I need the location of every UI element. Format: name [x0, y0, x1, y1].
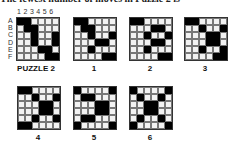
white-cell: [32, 101, 39, 108]
white-cell: [151, 87, 158, 94]
white-cell: [52, 18, 59, 25]
black-cell: [81, 94, 88, 101]
black-cell: [144, 32, 151, 39]
white-cell: [45, 25, 52, 32]
black-cell: [53, 94, 60, 101]
black-cell: [32, 115, 39, 122]
white-cell: [17, 53, 24, 60]
white-cell: [192, 39, 199, 46]
black-cell: [74, 122, 81, 129]
white-cell: [38, 25, 45, 32]
white-cell: [74, 108, 81, 115]
white-cell: [95, 53, 102, 60]
white-cell: [158, 46, 165, 53]
white-cell: [53, 87, 60, 94]
row-label: A: [8, 17, 16, 24]
puzzle-grid-option-4: [17, 86, 61, 130]
black-cell: [32, 94, 39, 101]
white-cell: [24, 32, 31, 39]
black-cell: [109, 32, 116, 39]
white-cell: [53, 108, 60, 115]
white-cell: [137, 25, 144, 32]
white-cell: [192, 46, 199, 53]
black-cell: [220, 46, 227, 53]
white-cell: [144, 53, 151, 60]
white-cell: [130, 32, 137, 39]
white-cell: [46, 94, 53, 101]
black-cell: [213, 39, 220, 46]
white-cell: [192, 25, 199, 32]
black-cell: [31, 39, 38, 46]
white-cell: [88, 101, 95, 108]
white-cell: [144, 122, 151, 129]
white-cell: [74, 115, 81, 122]
black-cell: [199, 25, 206, 32]
white-cell: [74, 39, 81, 46]
white-cell: [137, 39, 144, 46]
white-cell: [95, 94, 102, 101]
white-cell: [74, 53, 81, 60]
white-cell: [52, 46, 59, 53]
row-labels: ABCDEF: [8, 17, 16, 60]
white-cell: [130, 46, 137, 53]
white-cell: [38, 39, 45, 46]
white-cell: [144, 115, 151, 122]
black-cell: [46, 108, 53, 115]
black-cell: [31, 25, 38, 32]
black-cell: [95, 39, 102, 46]
black-cell: [220, 53, 227, 60]
white-cell: [165, 39, 172, 46]
black-cell: [158, 115, 165, 122]
white-cell: [185, 25, 192, 32]
white-cell: [213, 46, 220, 53]
white-cell: [31, 46, 38, 53]
header-text: The fewest number of moves in Puzzle 2 i…: [0, 0, 234, 4]
white-cell: [206, 46, 213, 53]
white-cell: [151, 53, 158, 60]
column-numbers: 1 2 3 4 5 6: [17, 8, 53, 15]
white-cell: [165, 115, 172, 122]
white-cell: [88, 108, 95, 115]
white-cell: [213, 18, 220, 25]
white-cell: [24, 46, 31, 53]
white-cell: [95, 32, 102, 39]
black-cell: [144, 101, 151, 108]
black-cell: [52, 53, 59, 60]
white-cell: [39, 87, 46, 94]
puzzle-grid-option-2: [129, 17, 173, 61]
white-cell: [95, 25, 102, 32]
white-cell: [151, 32, 158, 39]
black-cell: [220, 25, 227, 32]
white-cell: [45, 32, 52, 39]
white-cell: [144, 25, 151, 32]
black-cell: [88, 46, 95, 53]
white-cell: [81, 53, 88, 60]
white-cell: [185, 46, 192, 53]
black-cell: [74, 18, 81, 25]
black-cell: [18, 122, 25, 129]
white-cell: [88, 18, 95, 25]
white-cell: [137, 32, 144, 39]
white-cell: [24, 53, 31, 60]
white-cell: [39, 94, 46, 101]
black-cell: [38, 46, 45, 53]
black-cell: [144, 46, 151, 53]
white-cell: [38, 18, 45, 25]
white-cell: [81, 46, 88, 53]
white-cell: [158, 108, 165, 115]
puzzle-label: 5: [72, 133, 116, 142]
black-cell: [158, 53, 165, 60]
black-cell: [165, 87, 172, 94]
white-cell: [31, 53, 38, 60]
black-cell: [109, 122, 116, 129]
black-cell: [81, 25, 88, 32]
black-cell: [25, 87, 32, 94]
black-cell: [158, 25, 165, 32]
white-cell: [32, 122, 39, 129]
white-cell: [88, 39, 95, 46]
black-cell: [158, 39, 165, 46]
black-cell: [31, 32, 38, 39]
white-cell: [130, 53, 137, 60]
white-cell: [74, 32, 81, 39]
white-cell: [38, 32, 45, 39]
